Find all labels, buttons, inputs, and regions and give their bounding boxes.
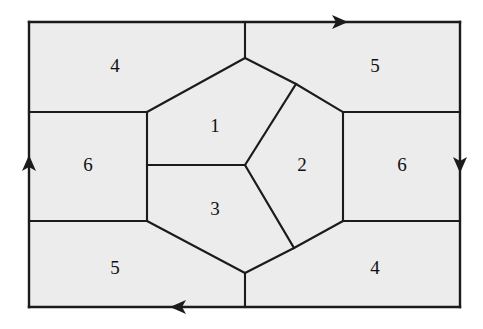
region-label-mid-left: 6: [83, 154, 93, 175]
region-label-center-three: 3: [210, 198, 220, 219]
region-label-top-left: 4: [110, 55, 120, 76]
region-label-top-right: 5: [370, 55, 380, 76]
region-label-bottom-left: 5: [110, 257, 120, 278]
region-label-mid-right: 6: [397, 154, 407, 175]
figure-container: 4 5 6 6 5 4 1 2 3: [0, 0, 483, 329]
polygon-identification-diagram: 4 5 6 6 5 4 1 2 3: [0, 0, 483, 329]
region-label-center-two: 2: [297, 154, 307, 175]
region-label-bottom-right: 4: [370, 257, 380, 278]
region-label-center-one: 1: [210, 115, 220, 136]
